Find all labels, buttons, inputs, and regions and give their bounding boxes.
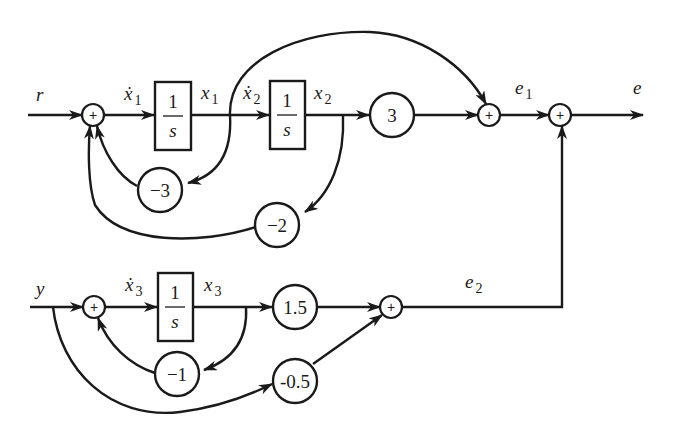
numerator: 1 xyxy=(282,90,292,111)
gain-minus-2: −2 xyxy=(255,203,299,247)
sum-e2: + xyxy=(380,296,402,318)
gain-value: −2 xyxy=(267,215,287,236)
integrator-1: 1 s xyxy=(155,82,191,150)
upper-subsystem: + + + 1 s 1 s 3 −3 xyxy=(28,32,643,247)
sum-e1: + xyxy=(478,104,500,126)
denominator: s xyxy=(171,311,178,332)
label-x2: x2 xyxy=(313,82,331,107)
gain-minus-0.5: -0.5 xyxy=(273,359,317,403)
x1-feedforward-path xyxy=(230,32,486,115)
x1-to-gain-m3-path xyxy=(188,115,230,183)
denominator: s xyxy=(283,119,290,140)
gain-m1-to-sum3-path xyxy=(98,318,155,373)
gain-1.5: 1.5 xyxy=(273,285,317,329)
gain-value: 1.5 xyxy=(283,297,307,318)
block-diagram: + + + 1 s 1 s 3 −3 xyxy=(0,0,674,448)
label-e1: e1 xyxy=(515,77,532,102)
label-e: e xyxy=(633,77,641,98)
numerator: 1 xyxy=(168,91,178,112)
lower-subsystem: + + 1 s 1.5 −1 -0.5 y ẋ3 x3 e2 xyxy=(30,126,562,413)
label-x3dot: ẋ3 xyxy=(124,274,142,299)
x3-to-gain-m1-path xyxy=(204,307,246,370)
gain-value: −3 xyxy=(150,180,170,201)
denominator: s xyxy=(169,120,176,141)
sum-e: + xyxy=(549,104,571,126)
label-x2dot: ẋ2 xyxy=(242,82,260,107)
label-y: y xyxy=(34,278,45,299)
sum1: + xyxy=(82,104,104,126)
plus-sign: + xyxy=(90,299,98,315)
plus-sign: + xyxy=(556,107,564,123)
gain-value: −1 xyxy=(167,364,187,385)
gain-value: 3 xyxy=(387,105,397,126)
gain-m3-to-sum1-path xyxy=(97,126,137,186)
label-e2: e2 xyxy=(465,271,482,296)
gain-m05-to-sume2-line xyxy=(313,315,382,364)
label-r: r xyxy=(36,84,44,105)
integrator-3: 1 s xyxy=(158,273,193,341)
label-x3: x3 xyxy=(203,274,221,299)
gain-minus-3: −3 xyxy=(138,168,182,212)
plus-sign: + xyxy=(387,299,395,315)
label-x1: x1 xyxy=(200,82,218,107)
plus-sign: + xyxy=(89,107,97,123)
gain-3: 3 xyxy=(370,93,414,137)
x2-to-gain-m2-path xyxy=(305,115,343,212)
label-x1dot: ẋ1 xyxy=(123,83,141,108)
gain-minus-1: −1 xyxy=(155,352,199,396)
sum3: + xyxy=(83,296,105,318)
integrator-2: 1 s xyxy=(270,81,305,149)
e2-line xyxy=(402,126,562,307)
plus-sign: + xyxy=(485,107,493,123)
gain-value: -0.5 xyxy=(280,371,310,392)
numerator: 1 xyxy=(170,282,180,303)
